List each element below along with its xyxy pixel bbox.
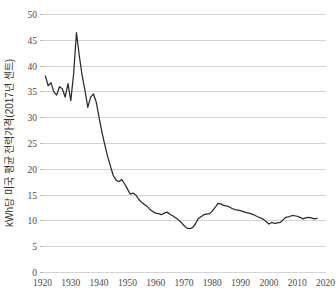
x-tick-label-2010: 2010 (288, 278, 307, 288)
y-tick-label-25: 25 (28, 139, 38, 149)
x-tick-label-1970: 1970 (175, 278, 194, 288)
x-tick-label-1930: 1930 (61, 278, 80, 288)
x-tick-label-2020: 2020 (316, 278, 335, 288)
x-tick-label-1940: 1940 (90, 278, 109, 288)
x-tick-label-1990: 1990 (231, 278, 250, 288)
y-tick-label-45: 45 (28, 36, 38, 46)
y-tick-label-20: 20 (28, 165, 38, 175)
y-axis-title-label: kWh당 미국 평균 전력가격(2017년 센트) (3, 59, 15, 227)
x-tick-label-1950: 1950 (118, 278, 137, 288)
x-tick-label-1980: 1980 (203, 278, 222, 288)
y-tick-label-40: 40 (28, 62, 38, 72)
chart-background (0, 0, 336, 301)
y-tick-label-35: 35 (28, 87, 38, 97)
x-axis-tick-labels: 1920193019401950196019701980199020002010… (33, 278, 335, 288)
x-tick-label-1920: 1920 (33, 278, 52, 288)
chart-container: 05101520253035404550 1920193019401950196… (0, 0, 336, 301)
x-tick-label-1960: 1960 (146, 278, 165, 288)
y-axis-title: kWh당 미국 평균 전력가격(2017년 센트) (3, 59, 15, 227)
y-tick-label-50: 50 (28, 10, 38, 20)
y-tick-label-10: 10 (28, 216, 38, 226)
y-tick-label-30: 30 (28, 113, 38, 123)
y-tick-label-0: 0 (32, 268, 37, 278)
y-tick-label-5: 5 (32, 242, 37, 252)
x-tick-label-2000: 2000 (259, 278, 278, 288)
line-chart: 05101520253035404550 1920193019401950196… (0, 0, 336, 301)
y-tick-label-15: 15 (28, 191, 38, 201)
